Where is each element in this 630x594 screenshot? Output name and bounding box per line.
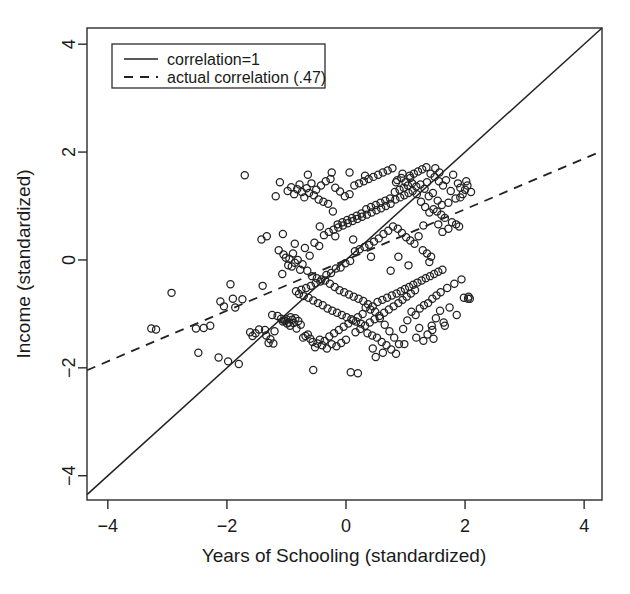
x-tick-label: −4 bbox=[98, 516, 119, 536]
x-tick-label: 0 bbox=[341, 516, 351, 536]
y-tick-label: 2 bbox=[59, 147, 79, 157]
plot-canvas: −4−2024−4−2024 correlation=1 actual corr… bbox=[0, 0, 630, 594]
legend: correlation=1 actual correlation (.47) bbox=[112, 44, 326, 88]
y-tick-label: 0 bbox=[59, 255, 79, 265]
y-tick-label: 4 bbox=[59, 39, 79, 49]
legend-label-regression: actual correlation (.47) bbox=[167, 69, 326, 86]
y-tick-label: −2 bbox=[59, 358, 79, 379]
y-axis-title: Income (standardized) bbox=[13, 169, 34, 358]
y-tick-label: −4 bbox=[59, 465, 79, 486]
scatter-plot-figure: −4−2024−4−2024 correlation=1 actual corr… bbox=[0, 0, 630, 594]
legend-label-identity: correlation=1 bbox=[167, 51, 260, 68]
x-tick-label: −2 bbox=[217, 516, 238, 536]
x-tick-label: 4 bbox=[579, 516, 589, 536]
x-tick-label: 2 bbox=[460, 516, 470, 536]
x-axis-title: Years of Schooling (standardized) bbox=[202, 545, 486, 566]
